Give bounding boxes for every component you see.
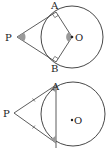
label-p-bottom: P	[3, 108, 10, 119]
tangent-pa-bottom	[14, 85, 56, 113]
label-p-top: P	[5, 32, 12, 43]
diagram-top: P A B O	[5, 0, 103, 74]
tangent-diagrams: P A B O P A O	[0, 0, 106, 148]
label-a-top: A	[50, 0, 59, 11]
center-o-bottom	[71, 119, 73, 121]
label-a-bottom: A	[51, 81, 60, 92]
circle-bottom	[41, 82, 105, 146]
label-o-top: O	[75, 32, 83, 43]
center-o-top	[71, 36, 74, 39]
tangent-pb-bottom	[14, 113, 56, 143]
label-b-top: B	[51, 63, 58, 74]
diagram-bottom: P A O	[3, 81, 105, 148]
label-o-bottom: O	[74, 115, 82, 126]
